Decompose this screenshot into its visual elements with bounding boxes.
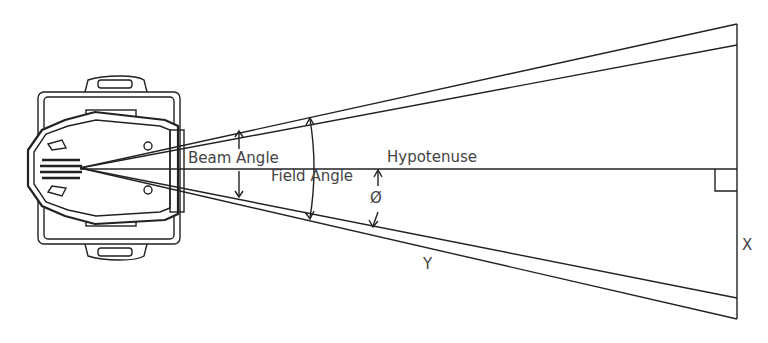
moving-head-fixture-icon	[28, 76, 184, 260]
hypotenuse-label: Hypotenuse	[387, 150, 477, 165]
x-label: X	[742, 238, 752, 253]
right-angle-marker	[715, 169, 737, 191]
y-label: Y	[423, 257, 432, 272]
field-angle-label: Field Angle	[271, 169, 353, 184]
phi-label: Ø	[370, 191, 382, 206]
beam-angle-diagram	[0, 0, 768, 343]
beam-angle-label: Beam Angle	[188, 151, 279, 166]
